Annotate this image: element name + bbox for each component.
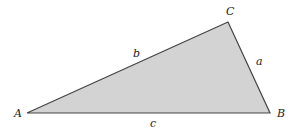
vertex-label-b: B [276, 107, 285, 120]
side-label-a: a [256, 55, 263, 68]
triangle-abc [27, 22, 270, 113]
vertex-label-c: C [226, 5, 235, 18]
triangle-diagram: A B C a b c [0, 0, 291, 137]
side-label-b: b [133, 47, 140, 60]
side-label-c: c [150, 117, 156, 130]
vertex-label-a: A [13, 107, 22, 120]
